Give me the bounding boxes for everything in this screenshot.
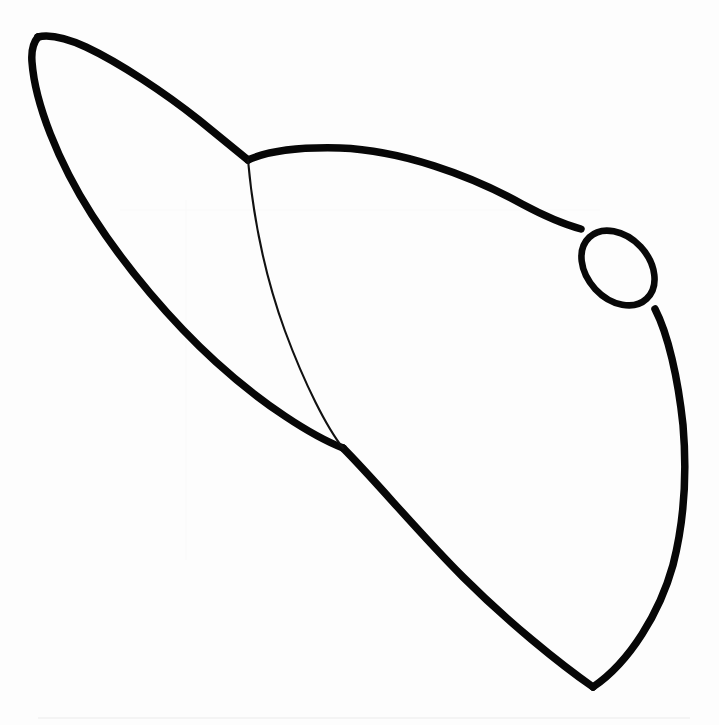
- left-lobe-superior-border: [38, 36, 248, 160]
- right-lobe-right-margin: [593, 309, 685, 687]
- right-lobe-inferior-border: [343, 448, 593, 687]
- right-lobe-superior-border: [248, 148, 581, 229]
- left-lobe-inferior-border: [32, 37, 343, 448]
- liver-outline-figure: Liver outline line drawing: [0, 0, 719, 725]
- drawing-canvas: Liver outline line drawing: [0, 0, 719, 725]
- right-lobe-outline: [248, 148, 685, 687]
- left-lobe-outline: [32, 36, 343, 448]
